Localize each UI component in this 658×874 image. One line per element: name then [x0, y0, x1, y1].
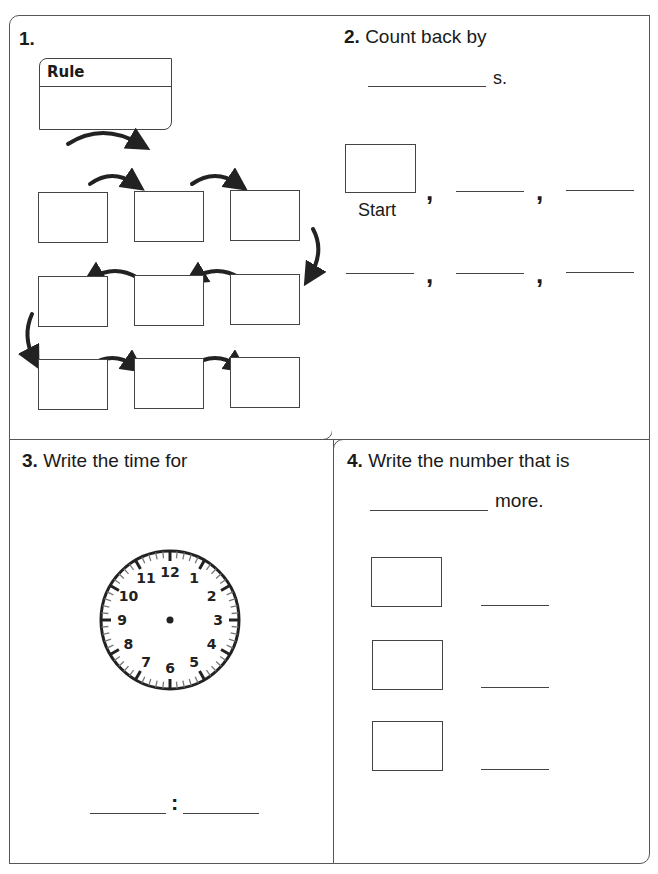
- comma: ,: [536, 176, 543, 207]
- grid-box-3-2[interactable]: [134, 358, 204, 409]
- svg-text:1: 1: [189, 570, 199, 586]
- count-by-suffix: s.: [493, 68, 507, 89]
- grid-box-1-3[interactable]: [230, 190, 300, 241]
- number-box-3[interactable]: [372, 721, 443, 771]
- more-suffix: more.: [495, 490, 544, 512]
- problem-number: 2.: [344, 26, 360, 47]
- grid-box-1-1[interactable]: [38, 192, 108, 243]
- problem-3-panel: 3. Write the time for 121234567891011 :: [9, 439, 334, 864]
- more-by-answer-line[interactable]: [370, 510, 488, 511]
- answer-line-1[interactable]: [456, 191, 524, 192]
- answer-line-1[interactable]: [481, 605, 549, 606]
- problem-prompt: Count back by: [365, 26, 486, 47]
- problem-3-heading: 3. Write the time for: [22, 450, 187, 472]
- problem-2-heading: 2. Count back by: [344, 26, 487, 48]
- number-box-1[interactable]: [371, 557, 442, 607]
- problem-2-panel: 2. Count back by s. Start , , , ,: [332, 15, 650, 440]
- time-colon: :: [171, 790, 178, 816]
- clock-face-icon: 121234567891011: [95, 545, 245, 695]
- problem-4-panel: 4. Write the number that is more.: [333, 439, 650, 864]
- svg-text:8: 8: [124, 636, 134, 652]
- svg-text:7: 7: [141, 654, 151, 670]
- problem-prompt: Write the time for: [43, 450, 187, 471]
- problem-prompt: Write the number that is: [368, 450, 569, 471]
- svg-text:5: 5: [189, 654, 199, 670]
- problem-number: 4.: [347, 450, 363, 471]
- svg-text:10: 10: [119, 588, 139, 604]
- problem-4-heading: 4. Write the number that is: [347, 450, 570, 472]
- svg-text:11: 11: [136, 570, 155, 586]
- start-box[interactable]: [345, 144, 416, 193]
- grid-box-2-2[interactable]: [134, 275, 204, 326]
- svg-text:2: 2: [207, 588, 217, 604]
- minute-answer-line[interactable]: [183, 813, 259, 814]
- svg-text:4: 4: [207, 636, 217, 652]
- answer-line-5[interactable]: [566, 272, 634, 273]
- problem-number: 3.: [22, 450, 38, 471]
- comma: ,: [426, 259, 433, 290]
- svg-text:12: 12: [160, 564, 179, 580]
- answer-line-2[interactable]: [481, 687, 549, 688]
- grid-box-1-2[interactable]: [134, 191, 204, 242]
- count-by-answer-line[interactable]: [368, 86, 486, 87]
- start-label: Start: [358, 200, 396, 221]
- comma: ,: [426, 176, 433, 207]
- problem-1-panel: 1. Rule: [9, 15, 333, 440]
- answer-line-3[interactable]: [346, 273, 414, 274]
- answer-line-3[interactable]: [481, 769, 549, 770]
- grid-box-3-1[interactable]: [38, 359, 108, 410]
- svg-text:6: 6: [165, 660, 175, 676]
- grid-box-3-3[interactable]: [230, 357, 300, 408]
- answer-line-4[interactable]: [456, 273, 524, 274]
- answer-line-2[interactable]: [566, 190, 634, 191]
- comma: ,: [536, 259, 543, 290]
- grid-box-2-1[interactable]: [38, 276, 108, 327]
- number-box-2[interactable]: [372, 640, 443, 690]
- grid-box-2-3[interactable]: [230, 274, 300, 325]
- svg-text:3: 3: [213, 612, 223, 628]
- svg-text:9: 9: [117, 612, 127, 628]
- hour-answer-line[interactable]: [90, 813, 166, 814]
